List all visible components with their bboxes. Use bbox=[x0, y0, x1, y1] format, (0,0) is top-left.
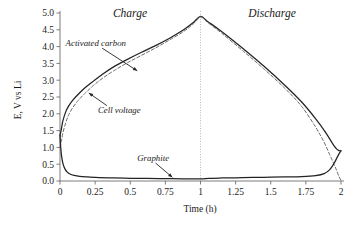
y-tick-label: 0.0 bbox=[42, 176, 54, 186]
y-tick-label: 1.5 bbox=[42, 126, 54, 136]
x-tick-label: 1.5 bbox=[265, 187, 277, 197]
y-tick-label: 0.5 bbox=[42, 160, 54, 170]
x-tick-labels: 00.250.50.7511.251.51.752 bbox=[58, 187, 344, 197]
annotation-label-graphite: Graphite bbox=[137, 153, 169, 163]
x-tick-label: 0.5 bbox=[124, 187, 136, 197]
y-tick-label: 4.0 bbox=[42, 42, 54, 52]
annotation-arrowhead-cell-voltage bbox=[89, 93, 93, 97]
electrochemical-charge-discharge-chart: 00.250.50.7511.251.51.752 0.00.51.01.52.… bbox=[0, 0, 360, 226]
x-tick-label: 1.25 bbox=[227, 187, 244, 197]
series-annotations: Activated carbonCell voltageGraphite bbox=[65, 38, 173, 177]
annotation-label-cell-voltage: Cell voltage bbox=[98, 105, 141, 115]
y-tick-label: 4.5 bbox=[42, 25, 54, 35]
y-tick-label: 2.5 bbox=[42, 92, 54, 102]
charge-region-label: Charge bbox=[113, 7, 147, 20]
x-tick-label: 0.75 bbox=[157, 187, 174, 197]
y-tick-label: 3.5 bbox=[42, 59, 54, 69]
y-tick-label: 5.0 bbox=[42, 8, 54, 18]
y-axis-title: E, V vs Li bbox=[13, 80, 23, 119]
discharge-region-label: Discharge bbox=[247, 7, 295, 20]
x-tick-label: 1.75 bbox=[298, 187, 315, 197]
x-tick-label: 0.25 bbox=[87, 187, 104, 197]
annotation-arrowhead-activated-carbon bbox=[133, 67, 138, 71]
annotation-label-activated-carbon: Activated carbon bbox=[65, 38, 127, 48]
y-tick-labels: 0.00.51.01.52.02.53.03.54.04.55.0 bbox=[42, 8, 54, 186]
x-tick-label: 2 bbox=[339, 187, 344, 197]
x-tick-label: 0 bbox=[58, 187, 63, 197]
x-tick-label: 1 bbox=[198, 187, 203, 197]
y-tick-label: 3.0 bbox=[42, 76, 54, 86]
y-tick-label: 2.0 bbox=[42, 109, 54, 119]
chart-container: 00.250.50.7511.251.51.752 0.00.51.01.52.… bbox=[0, 0, 360, 226]
y-tick-label: 1.0 bbox=[42, 143, 54, 153]
x-axis-title: Time (h) bbox=[183, 204, 216, 215]
